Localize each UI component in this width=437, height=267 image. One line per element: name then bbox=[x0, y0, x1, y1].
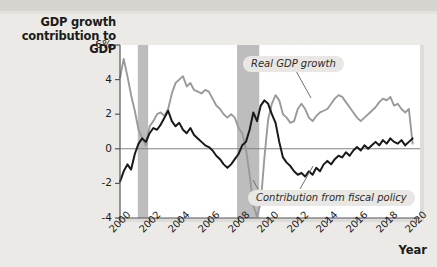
y-axis-label-2: 2 bbox=[78, 107, 112, 119]
y-axis-label-5: -4 bbox=[78, 211, 112, 223]
annotation-leader-fiscal bbox=[300, 166, 313, 189]
y-axis-label-1: 4 bbox=[78, 73, 112, 85]
annotation-leader-real-gdp bbox=[296, 71, 311, 98]
annotation-real-gdp-growth: Real GDP growth bbox=[243, 56, 344, 72]
chart-figure: GDP growth contribution to GDP 6%420-2-4… bbox=[0, 0, 437, 267]
chart-title: GDP growth contribution to GDP bbox=[8, 16, 116, 57]
annotation-fiscal-contribution: Contribution from fiscal policy bbox=[248, 190, 415, 206]
chart-title-line1: GDP growth bbox=[8, 16, 116, 30]
y-axis-label-3: 0 bbox=[78, 142, 112, 154]
x-axis-title: Year bbox=[398, 243, 427, 257]
y-axis-label-0: 6% bbox=[78, 38, 112, 50]
y-axis-label-4: -2 bbox=[78, 176, 112, 188]
